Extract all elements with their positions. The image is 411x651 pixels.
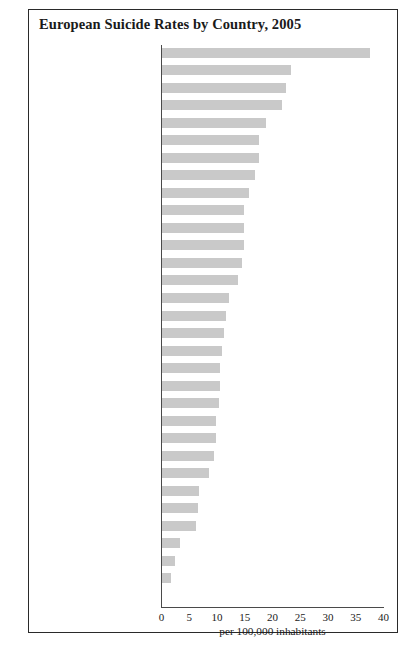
x-tick-label: 15 bbox=[230, 611, 260, 623]
bar bbox=[162, 433, 217, 443]
bar bbox=[162, 170, 256, 180]
bar bbox=[162, 486, 200, 496]
bar bbox=[162, 573, 172, 583]
bar bbox=[162, 65, 292, 75]
x-tick-label: 10 bbox=[202, 611, 232, 623]
x-tick-label: 25 bbox=[285, 611, 315, 623]
x-tick-label: 5 bbox=[174, 611, 204, 623]
bar bbox=[162, 205, 245, 215]
plot-area: LithuaniaHungaryLatviaSloveniaEstoniaBel… bbox=[29, 10, 399, 634]
bar bbox=[162, 346, 222, 356]
bar bbox=[162, 188, 249, 198]
bar bbox=[162, 328, 224, 338]
bar bbox=[162, 311, 226, 321]
bar bbox=[162, 258, 242, 268]
bar bbox=[162, 223, 244, 233]
bar bbox=[162, 83, 287, 93]
bar bbox=[162, 398, 219, 408]
bar bbox=[162, 275, 239, 285]
x-tick-label: 30 bbox=[313, 611, 343, 623]
bar bbox=[162, 556, 176, 566]
bar bbox=[162, 118, 267, 128]
bar bbox=[162, 135, 260, 145]
bar bbox=[162, 538, 181, 548]
bar bbox=[162, 521, 196, 531]
bar bbox=[162, 100, 283, 110]
bar bbox=[162, 468, 210, 478]
x-tick-label: 0 bbox=[147, 611, 177, 623]
bar bbox=[162, 381, 220, 391]
x-tick-label: 40 bbox=[369, 611, 399, 623]
bar bbox=[162, 240, 244, 250]
x-axis-line bbox=[161, 607, 384, 608]
bar bbox=[162, 153, 259, 163]
bar bbox=[162, 48, 370, 58]
bar bbox=[162, 451, 214, 461]
x-tick-label: 20 bbox=[258, 611, 288, 623]
bar bbox=[162, 416, 217, 426]
bar bbox=[162, 363, 221, 373]
chart-figure: European Suicide Rates by Country, 2005 … bbox=[28, 9, 398, 633]
bar bbox=[162, 503, 198, 513]
x-axis-label: per 100,000 inhabitants bbox=[161, 625, 384, 637]
x-tick-label: 35 bbox=[341, 611, 371, 623]
bar bbox=[162, 293, 230, 303]
